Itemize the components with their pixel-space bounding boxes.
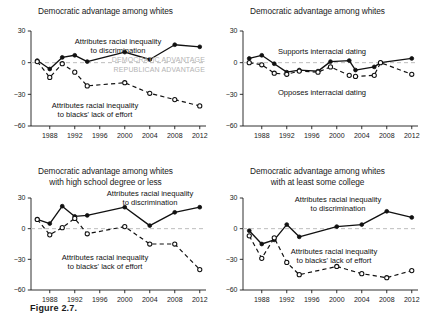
- data-point: [272, 71, 276, 75]
- data-point: [35, 217, 39, 221]
- x-tick-label: 1996: [304, 296, 320, 303]
- series-annotation: Attributes racial inequalityto discrimin…: [295, 195, 382, 213]
- advantage-annotation: REPUBLICAN ADVANTAGE: [114, 66, 206, 73]
- y-tick-label: −30: [14, 91, 26, 98]
- data-point: [285, 72, 289, 76]
- data-point: [247, 57, 251, 61]
- data-point: [372, 73, 376, 77]
- y-tick-label: −30: [226, 91, 238, 98]
- x-tick-label: 2004: [142, 296, 158, 303]
- x-tick-label: 1996: [304, 132, 320, 139]
- data-point: [60, 62, 64, 66]
- data-point: [335, 225, 339, 229]
- data-point: [60, 204, 64, 208]
- y-tick-label: 30: [18, 194, 26, 201]
- x-tick-label: 2008: [379, 296, 395, 303]
- x-tick-label: 1988: [42, 296, 58, 303]
- y-tick-label: −60: [14, 122, 26, 129]
- data-point: [385, 209, 389, 213]
- data-point: [378, 61, 382, 65]
- series-annotation: Attributes racial inequalityto discrimin…: [107, 189, 194, 207]
- data-point: [247, 61, 251, 65]
- data-point: [173, 210, 177, 214]
- series-annotation: Opposes interracial dating: [278, 88, 366, 97]
- data-point: [260, 242, 264, 246]
- x-tick-label: 2000: [117, 132, 133, 139]
- data-point: [148, 242, 152, 246]
- data-point: [385, 276, 389, 280]
- series-annotation: Attributes racial inequalityto discrimin…: [75, 37, 162, 55]
- advantage-annotation: DEMOCRATIC ADVANTAGE: [112, 56, 205, 63]
- series-annotation: Attributes racial inequalityto blacks' l…: [62, 253, 149, 271]
- x-tick-label: 1992: [279, 296, 295, 303]
- x-tick-label: 2008: [379, 132, 395, 139]
- x-tick-label: 1988: [254, 132, 270, 139]
- series-annotation: Attributes racial inequalityto blacks' l…: [52, 101, 139, 119]
- x-tick-label: 2012: [404, 132, 420, 139]
- data-point: [285, 223, 289, 227]
- data-point: [272, 62, 276, 66]
- data-point: [328, 65, 332, 69]
- y-tick-label: 0: [234, 59, 238, 66]
- data-point: [360, 223, 364, 227]
- y-tick-label: −60: [226, 122, 238, 129]
- x-tick-label: 2000: [117, 296, 133, 303]
- plot-bottom-right: 300−30−601988199219962000200420082012Att…: [212, 160, 423, 320]
- data-point: [347, 73, 351, 77]
- data-point: [173, 43, 177, 47]
- data-point: [123, 81, 127, 85]
- x-tick-label: 2000: [329, 296, 345, 303]
- data-point: [85, 60, 89, 64]
- series-annotation: Attributes racial inequalityto blacks' l…: [291, 247, 378, 265]
- data-point: [360, 272, 364, 276]
- x-tick-label: 2008: [167, 132, 183, 139]
- data-point: [410, 268, 414, 272]
- data-point: [148, 91, 152, 95]
- y-tick-label: 30: [230, 194, 238, 201]
- data-point: [60, 55, 64, 59]
- data-point: [410, 216, 414, 220]
- chart-panel-bottom-left: Democratic advantage among whites with h…: [0, 160, 211, 320]
- data-point: [260, 63, 264, 67]
- x-tick-label: 1992: [279, 132, 295, 139]
- x-tick-label: 1988: [42, 132, 58, 139]
- data-point: [60, 226, 64, 230]
- x-tick-label: 2012: [192, 296, 208, 303]
- data-point: [73, 70, 77, 74]
- y-tick-label: −60: [226, 286, 238, 293]
- x-tick-label: 1996: [92, 296, 108, 303]
- data-point: [48, 233, 52, 237]
- x-tick-label: 1992: [67, 132, 83, 139]
- data-point: [48, 67, 52, 71]
- y-tick-label: 0: [22, 225, 26, 232]
- data-point: [48, 75, 52, 79]
- x-tick-label: 2004: [142, 132, 158, 139]
- data-point: [173, 242, 177, 246]
- data-point: [198, 45, 202, 49]
- series-annotation: Supports interracial dating: [278, 47, 366, 56]
- y-tick-label: 0: [234, 225, 238, 232]
- data-point: [247, 229, 251, 233]
- y-tick-label: −30: [14, 256, 26, 263]
- data-point: [347, 59, 351, 63]
- data-point: [372, 65, 376, 69]
- data-point: [198, 104, 202, 108]
- data-point: [48, 222, 52, 226]
- series-line-0: [37, 206, 200, 225]
- chart-panel-top-right: Democratic advantage among whites 300−30…: [212, 0, 423, 160]
- data-point: [272, 236, 276, 240]
- data-point: [297, 235, 301, 239]
- plot-top-left: 300−30−601988199219962000200420082012Att…: [0, 0, 211, 160]
- x-tick-label: 2012: [192, 132, 208, 139]
- figure-caption: Figure 2.7.: [30, 303, 77, 313]
- data-point: [73, 216, 77, 220]
- data-point: [285, 260, 289, 264]
- x-tick-label: 1992: [67, 296, 83, 303]
- x-tick-label: 2000: [329, 132, 345, 139]
- y-tick-label: −60: [14, 286, 26, 293]
- data-point: [353, 74, 357, 78]
- data-point: [85, 213, 89, 217]
- plot-top-right: 300−30−601988199219962000200420082012Sup…: [212, 0, 423, 160]
- data-point: [260, 53, 264, 57]
- y-tick-label: 0: [22, 59, 26, 66]
